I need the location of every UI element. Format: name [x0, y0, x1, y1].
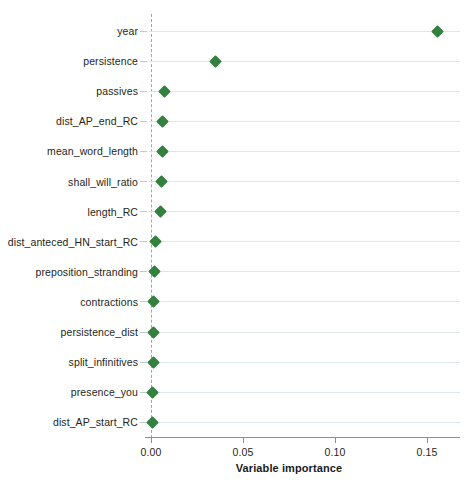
dot-plot-row: passives [0, 83, 468, 99]
category-label: shall_will_ratio [0, 174, 138, 190]
dot-plot-row: length_RC [0, 204, 468, 220]
category-label: dist_AP_end_RC [0, 113, 138, 129]
dot-plot-row: preposition_stranding [0, 264, 468, 280]
category-label: dist_AP_start_RC [0, 414, 138, 430]
data-point-marker [149, 235, 162, 248]
data-point-marker [209, 55, 222, 68]
horizontal-gridline [149, 362, 460, 363]
x-axis-tick [243, 437, 244, 443]
x-axis-tick-label: 0.10 [305, 446, 365, 458]
horizontal-gridline [149, 241, 460, 242]
x-axis-title: Variable importance [151, 462, 427, 474]
category-label: length_RC [0, 204, 138, 220]
horizontal-gridline [149, 91, 460, 92]
plot-area: yearpersistencepassivesdist_AP_end_RCmea… [0, 0, 468, 440]
data-point-marker [159, 85, 172, 98]
category-tick-mark [140, 61, 147, 62]
dot-plot-row: dist_anteced_HN_start_RC [0, 234, 468, 250]
data-point-marker [146, 416, 159, 429]
horizontal-gridline [149, 422, 460, 423]
horizontal-gridline [149, 31, 460, 32]
dot-plot-row: persistence_dist [0, 324, 468, 340]
horizontal-gridline [149, 121, 460, 122]
zero-reference-line [151, 14, 152, 438]
horizontal-gridline [149, 392, 460, 393]
category-label: passives [0, 83, 138, 99]
horizontal-gridline [149, 61, 460, 62]
category-label: persistence [0, 53, 138, 69]
data-point-marker [431, 25, 444, 38]
category-label: persistence_dist [0, 324, 138, 340]
category-label: preposition_stranding [0, 264, 138, 280]
data-point-marker [147, 296, 160, 309]
dot-plot-row: dist_AP_start_RC [0, 414, 468, 430]
x-axis-tick [335, 437, 336, 443]
horizontal-gridline [149, 301, 460, 302]
horizontal-gridline [149, 332, 460, 333]
dot-plot-row: dist_AP_end_RC [0, 113, 468, 129]
category-tick-mark [140, 332, 147, 333]
dot-plot-row: year [0, 23, 468, 39]
data-point-marker [146, 386, 159, 399]
x-axis-tick [427, 437, 428, 443]
data-point-marker [154, 205, 167, 218]
category-label: year [0, 23, 138, 39]
x-axis-line [145, 437, 460, 438]
category-tick-mark [140, 271, 147, 272]
dot-plot-row: presence_you [0, 384, 468, 400]
category-tick-mark [140, 301, 147, 302]
data-point-marker [147, 356, 160, 369]
category-tick-mark [140, 181, 147, 182]
data-point-marker [157, 115, 170, 128]
x-axis-tick-label: 0.15 [397, 446, 457, 458]
category-label: contractions [0, 294, 138, 310]
x-axis-tick [151, 437, 152, 443]
dot-plot-row: persistence [0, 53, 468, 69]
category-tick-mark [140, 121, 147, 122]
category-tick-mark [140, 362, 147, 363]
x-axis-tick-label: 0.00 [121, 446, 181, 458]
category-label: split_infinitives [0, 354, 138, 370]
data-point-marker [156, 145, 169, 158]
category-tick-mark [140, 31, 147, 32]
variable-importance-dot-plot: yearpersistencepassivesdist_AP_end_RCmea… [0, 0, 468, 490]
category-tick-mark [140, 91, 147, 92]
data-point-marker [155, 175, 168, 188]
category-tick-mark [140, 151, 147, 152]
category-label: dist_anteced_HN_start_RC [0, 234, 138, 250]
dot-plot-row: split_infinitives [0, 354, 468, 370]
horizontal-gridline [149, 211, 460, 212]
category-label: mean_word_length [0, 143, 138, 159]
data-point-marker [147, 326, 160, 339]
dot-plot-row: shall_will_ratio [0, 174, 468, 190]
x-axis-tick-label: 0.05 [213, 446, 273, 458]
horizontal-gridline [149, 181, 460, 182]
data-point-marker [148, 265, 161, 278]
category-tick-mark [140, 211, 147, 212]
figure-caption-partial [28, 481, 448, 490]
category-tick-mark [140, 241, 147, 242]
horizontal-gridline [149, 151, 460, 152]
dot-plot-row: contractions [0, 294, 468, 310]
dot-plot-row: mean_word_length [0, 143, 468, 159]
category-label: presence_you [0, 384, 138, 400]
horizontal-gridline [149, 271, 460, 272]
